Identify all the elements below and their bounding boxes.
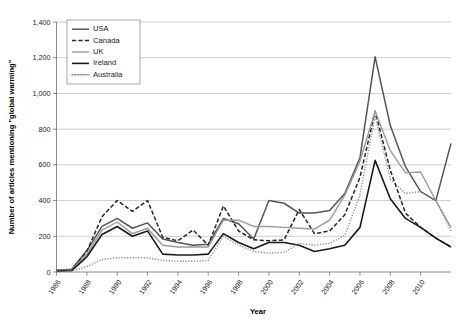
y-tick-label: 0	[47, 268, 51, 277]
x-tick-label: 1992	[137, 278, 154, 296]
series-line-uk	[57, 111, 452, 270]
chart-container: 02004006008001,0001,2001,400 19861988199…	[0, 0, 460, 322]
x-tick-label: 1998	[228, 278, 245, 296]
x-tick-label: 1990	[107, 278, 124, 296]
y-axis-ticks: 02004006008001,0001,2001,400	[33, 18, 57, 277]
y-tick-label: 1,000	[33, 89, 51, 98]
x-tick-label: 2002	[289, 278, 306, 296]
y-axis-title: Number of articles mentioning "global wa…	[7, 59, 16, 234]
x-tick-label: 1994	[167, 278, 184, 296]
x-tick-label: 2008	[380, 278, 397, 296]
line-chart: 02004006008001,0001,2001,400 19861988199…	[0, 0, 460, 322]
legend-label-usa: USA	[93, 24, 110, 33]
series-line-canada	[57, 111, 452, 270]
chart-legend: USACanadaUKIrelandAustralia	[67, 20, 140, 84]
x-tick-label: 2006	[350, 278, 367, 296]
y-tick-label: 200	[39, 232, 51, 241]
y-tick-label: 800	[39, 125, 51, 134]
legend-label-ireland: Ireland	[93, 58, 116, 67]
y-tick-label: 600	[39, 160, 51, 169]
x-tick-label: 2000	[259, 278, 276, 296]
x-tick-label: 1986	[46, 278, 63, 296]
legend-label-canada: Canada	[93, 36, 120, 45]
legend-label-uk: UK	[93, 47, 104, 56]
x-axis-ticks: 1986198819901992199419961998200020022004…	[46, 272, 427, 296]
x-tick-label: 2010	[410, 278, 427, 296]
series-line-usa	[57, 57, 452, 270]
y-tick-label: 400	[39, 196, 51, 205]
x-tick-label: 2004	[319, 278, 336, 296]
x-tick-label: 1988	[76, 278, 93, 296]
x-axis-title: Year	[250, 307, 266, 316]
series-line-ireland	[57, 160, 452, 271]
data-series	[57, 57, 452, 271]
x-tick-label: 1996	[198, 278, 215, 296]
y-tick-label: 1,400	[33, 18, 51, 27]
legend-label-australia: Australia	[93, 70, 123, 79]
y-tick-label: 1,200	[33, 53, 51, 62]
